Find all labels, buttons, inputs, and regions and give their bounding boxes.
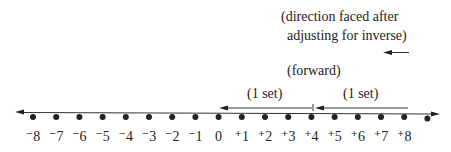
tick-label: ⁻8 [26, 130, 40, 144]
number-point [216, 114, 222, 120]
number-point [285, 114, 291, 120]
number-point [100, 114, 106, 120]
tick-label: ⁺5 [327, 130, 341, 144]
tick-label: ⁺6 [351, 130, 365, 144]
direction-annotation-line2: adjusting for inverse) [287, 29, 407, 43]
number-point [169, 114, 175, 120]
tick-label: ⁻7 [49, 130, 63, 144]
tick-label: ⁻6 [72, 130, 86, 144]
tick-label: ⁺1 [235, 130, 249, 144]
number-point [192, 114, 198, 120]
number-line-points [30, 114, 430, 122]
set-arrow-2 [315, 106, 408, 111]
number-point [401, 114, 407, 120]
number-point [378, 114, 384, 120]
number-point [424, 116, 430, 122]
tick-label: ⁺2 [258, 130, 272, 144]
number-point [30, 114, 36, 120]
number-point [146, 114, 152, 120]
tick-label: ⁻4 [119, 130, 133, 144]
forward-label: (forward) [287, 64, 341, 78]
tick-label: ⁻2 [165, 130, 179, 144]
direction-annotation-line1: (direction faced after [281, 10, 398, 24]
direction-arrow [383, 50, 409, 55]
number-point [123, 114, 129, 120]
set-label-left: (1 set) [247, 87, 282, 101]
tick-label: ⁺7 [374, 130, 388, 144]
number-point [239, 114, 245, 120]
number-point [76, 114, 82, 120]
set-arrow-1 [219, 106, 312, 111]
tick-label: ⁺4 [304, 130, 318, 144]
tick-label: ⁻5 [95, 130, 109, 144]
tick-label: 0 [215, 130, 222, 144]
tick-label: ⁻3 [142, 130, 156, 144]
tick-label: ⁺3 [281, 130, 295, 144]
number-point [262, 114, 268, 120]
number-point [308, 114, 314, 120]
number-point [53, 114, 59, 120]
set-label-right: (1 set) [343, 87, 378, 101]
tick-label: ⁻1 [188, 130, 202, 144]
tick-label: ⁺8 [397, 130, 411, 144]
number-point [355, 114, 361, 120]
number-point [332, 114, 338, 120]
